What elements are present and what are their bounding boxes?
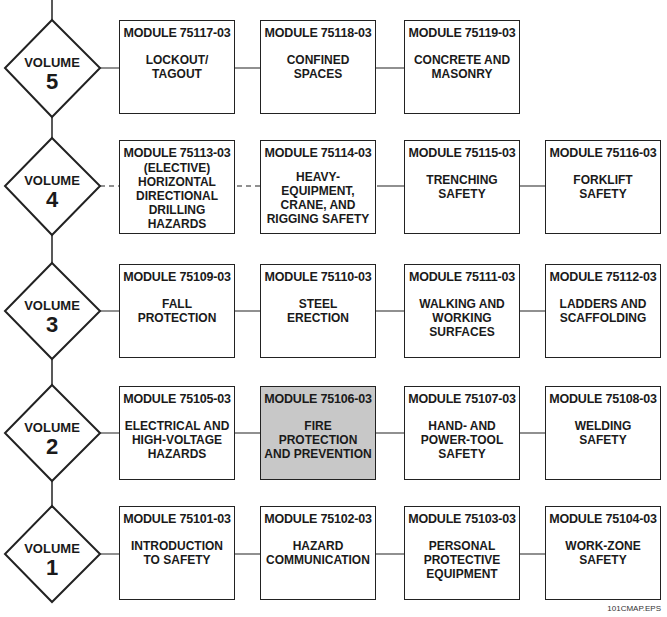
module-code: MODULE 75112-03 <box>546 270 660 284</box>
module-code: MODULE 75115-03 <box>405 146 519 160</box>
module-title: FORKLIFT SAFETY <box>546 173 660 201</box>
volume-1-label: VOLUME1 <box>2 542 102 580</box>
volume-number: 4 <box>2 188 102 212</box>
volume-number: 1 <box>2 556 102 580</box>
file-label: 101CMAP.EPS <box>607 604 661 613</box>
module-75110: MODULE 75110-03STEEL ERECTION <box>260 264 376 358</box>
module-title: HEAVY- EQUIPMENT, CRANE, AND RIGGING SAF… <box>261 170 375 226</box>
module-75118: MODULE 75118-03CONFINED SPACES <box>260 20 376 114</box>
module-75109: MODULE 75109-03FALL PROTECTION <box>119 264 235 358</box>
module-75104: MODULE 75104-03WORK-ZONE SAFETY <box>545 506 661 600</box>
module-75105: MODULE 75105-03ELECTRICAL AND HIGH-VOLTA… <box>119 386 235 480</box>
module-code: MODULE 75119-03 <box>405 26 519 40</box>
module-75119: MODULE 75119-03CONCRETE AND MASONRY <box>404 20 520 114</box>
module-title: PERSONAL PROTECTIVE EQUIPMENT <box>405 539 519 581</box>
module-title: STEEL ERECTION <box>261 297 375 325</box>
module-75117: MODULE 75117-03LOCKOUT/ TAGOUT <box>119 20 235 114</box>
volume-label: VOLUME <box>2 174 102 188</box>
module-code: MODULE 75101-03 <box>120 512 234 526</box>
module-75116: MODULE 75116-03FORKLIFT SAFETY <box>545 140 661 234</box>
module-75115: MODULE 75115-03TRENCHING SAFETY <box>404 140 520 234</box>
module-code: MODULE 75110-03 <box>261 270 375 284</box>
module-title: FALL PROTECTION <box>120 297 234 325</box>
module-title: WORK-ZONE SAFETY <box>546 539 660 567</box>
volume-2-label: VOLUME2 <box>2 421 102 459</box>
module-code: MODULE 75107-03 <box>405 392 519 406</box>
module-code: MODULE 75118-03 <box>261 26 375 40</box>
volume-label: VOLUME <box>2 421 102 435</box>
module-title: LADDERS AND SCAFFOLDING <box>546 297 660 325</box>
course-map: VOLUME5 VOLUME4 VOLUME3 VOLUME2 VOLUME1 … <box>0 0 667 617</box>
volume-label: VOLUME <box>2 56 102 70</box>
module-title: CONCRETE AND MASONRY <box>405 53 519 81</box>
volume-label: VOLUME <box>2 542 102 556</box>
volume-label: VOLUME <box>2 299 102 313</box>
module-75112: MODULE 75112-03LADDERS AND SCAFFOLDING <box>545 264 661 358</box>
module-code: MODULE 75108-03 <box>546 392 660 406</box>
module-75103: MODULE 75103-03PERSONAL PROTECTIVE EQUIP… <box>404 506 520 600</box>
module-code: MODULE 75104-03 <box>546 512 660 526</box>
module-title: HAZARD COMMUNICATION <box>261 539 375 567</box>
module-code: MODULE 75113-03 <box>120 146 234 160</box>
module-title: LOCKOUT/ TAGOUT <box>120 53 234 81</box>
module-code: MODULE 75109-03 <box>120 270 234 284</box>
volume-number: 3 <box>2 313 102 337</box>
module-title: CONFINED SPACES <box>261 53 375 81</box>
module-75113: MODULE 75113-03(ELECTIVE) HORIZONTAL DIR… <box>119 140 235 234</box>
module-title: (ELECTIVE) HORIZONTAL DIRECTIONAL DRILLI… <box>120 161 234 231</box>
module-title: HAND- AND POWER-TOOL SAFETY <box>405 419 519 461</box>
volume-number: 5 <box>2 70 102 94</box>
module-75107: MODULE 75107-03HAND- AND POWER-TOOL SAFE… <box>404 386 520 480</box>
module-code: MODULE 75102-03 <box>261 512 375 526</box>
module-code: MODULE 75106-03 <box>261 392 375 406</box>
module-title: INTRODUCTION TO SAFETY <box>120 539 234 567</box>
module-code: MODULE 75105-03 <box>120 392 234 406</box>
module-code: MODULE 75117-03 <box>120 26 234 40</box>
module-code: MODULE 75111-03 <box>405 270 519 284</box>
module-code: MODULE 75103-03 <box>405 512 519 526</box>
module-title: WELDING SAFETY <box>546 419 660 447</box>
module-title: TRENCHING SAFETY <box>405 173 519 201</box>
module-75101: MODULE 75101-03INTRODUCTION TO SAFETY <box>119 506 235 600</box>
module-title: FIRE PROTECTION AND PREVENTION <box>261 419 375 461</box>
volume-number: 2 <box>2 435 102 459</box>
module-code: MODULE 75116-03 <box>546 146 660 160</box>
module-code: MODULE 75114-03 <box>261 146 375 160</box>
module-75106-highlighted: MODULE 75106-03FIRE PROTECTION AND PREVE… <box>260 386 376 480</box>
module-title: ELECTRICAL AND HIGH-VOLTAGE HAZARDS <box>120 419 234 461</box>
module-75102: MODULE 75102-03HAZARD COMMUNICATION <box>260 506 376 600</box>
module-title: WALKING AND WORKING SURFACES <box>405 297 519 339</box>
volume-3-label: VOLUME3 <box>2 299 102 337</box>
module-75108: MODULE 75108-03WELDING SAFETY <box>545 386 661 480</box>
volume-4-label: VOLUME4 <box>2 174 102 212</box>
volume-5-label: VOLUME5 <box>2 56 102 94</box>
module-75114: MODULE 75114-03HEAVY- EQUIPMENT, CRANE, … <box>260 140 376 234</box>
module-75111: MODULE 75111-03WALKING AND WORKING SURFA… <box>404 264 520 358</box>
